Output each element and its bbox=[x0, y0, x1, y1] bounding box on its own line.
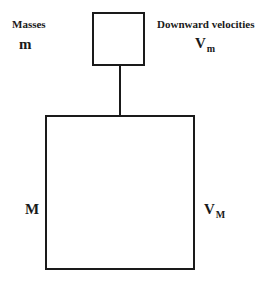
small-mass-velocity-label: Vm bbox=[195, 35, 215, 52]
large-mass-velocity-label: VM bbox=[204, 201, 225, 218]
large-mass-box bbox=[45, 115, 195, 270]
connecting-rope bbox=[119, 66, 121, 117]
large-mass-label: M bbox=[25, 201, 39, 218]
masses-header: Masses bbox=[12, 18, 46, 30]
small-mass-box bbox=[92, 12, 145, 66]
small-mass-label: m bbox=[19, 36, 32, 53]
velocities-header: Downward velocities bbox=[157, 18, 254, 30]
